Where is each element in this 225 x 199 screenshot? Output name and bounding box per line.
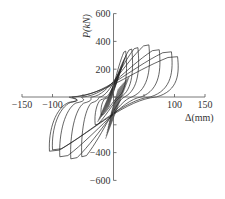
- axes: −150−100100150−600−400200400600: [12, 8, 213, 186]
- y-tick-label: 400: [96, 36, 111, 47]
- y-axis-title: P(kN): [81, 13, 93, 39]
- x-tick-label: −100: [42, 99, 63, 110]
- y-tick-label: 200: [96, 64, 111, 75]
- x-tick-label: 100: [167, 99, 182, 110]
- x-tick-label: 150: [198, 99, 213, 110]
- hysteresis-chart: −150−100100150−600−400200400600 P(kN) Δ(…: [0, 0, 225, 199]
- y-tick-label: 600: [96, 8, 111, 19]
- y-tick-label: −600: [90, 175, 111, 186]
- x-axis-title: Δ(mm): [185, 112, 214, 124]
- hysteresis-loop: [49, 52, 172, 151]
- x-tick-label: −150: [12, 99, 33, 110]
- y-tick-label: −400: [90, 147, 111, 158]
